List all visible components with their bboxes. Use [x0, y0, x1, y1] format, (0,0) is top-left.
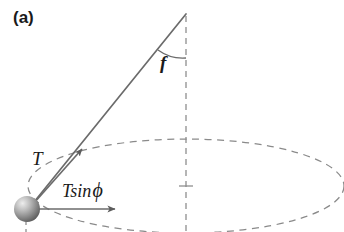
panel-label: (a): [13, 8, 34, 28]
string-line: [30, 14, 186, 207]
phi-symbol: ϕ: [91, 179, 102, 201]
pendulum-bob-sphere: [14, 196, 40, 222]
horizontal-component-label: Tsinϕ: [62, 179, 103, 202]
angle-phi-label: f: [160, 52, 166, 74]
tsin-prefix: Tsin: [62, 181, 91, 201]
conical-pendulum-diagram: [0, 0, 344, 232]
tension-label: T: [32, 148, 43, 170]
